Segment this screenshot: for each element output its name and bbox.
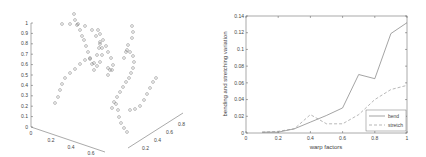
y-tick-label: 0.06 <box>234 80 244 86</box>
x-tick-label: 0.2 <box>48 137 55 143</box>
z-tick-label: 1 <box>25 20 28 26</box>
legend: bend stretch <box>366 110 406 131</box>
right-line-plot: 00.020.040.060.080.10.120.14 00.20.40.60… <box>222 13 409 150</box>
z-tick-label: 0.4 <box>21 82 28 88</box>
left-3d-plot: 00.10.20.30.40.50.60.70.80.91 00.20.40.6… <box>21 13 185 157</box>
x-tick-label: 1 <box>406 135 409 141</box>
z-tick-label: 0.2 <box>21 103 28 109</box>
scatter-markers <box>54 13 158 134</box>
x-tick-label: 0 <box>30 130 33 136</box>
legend-bend-label: bend <box>388 113 399 119</box>
y-tick-label: 0.14 <box>234 13 244 19</box>
y-tick-label: 0.2 <box>142 145 149 151</box>
z-tick-label: 0.7 <box>21 51 28 57</box>
y-axis-label: bending and stretching variation <box>222 31 228 116</box>
x-tick-label: 0 <box>245 135 248 141</box>
x-tick-label: 0.2 <box>275 135 282 141</box>
z-tick-label: 0.3 <box>21 92 28 98</box>
z-tick-label: 0.8 <box>21 40 28 46</box>
legend-stretch-label: stretch <box>388 122 403 128</box>
y-tick-label: 0.8 <box>178 121 185 127</box>
x-tick-label: 0.6 <box>88 150 95 156</box>
x-axis-label: warp factors <box>309 144 343 150</box>
z-tick-label: 0 <box>25 124 28 130</box>
x-tick-label: 0.8 <box>371 135 378 141</box>
x-tick-label: 0.4 <box>307 135 314 141</box>
z-tick-label: 0.9 <box>21 30 28 36</box>
y-tick-label: 0.12 <box>234 29 244 35</box>
z-tick-label: 0.5 <box>21 72 28 78</box>
x-tick-label: 0.4 <box>68 144 75 150</box>
y-tick-label: 0.08 <box>234 63 244 69</box>
y-tick-label: 0.02 <box>234 113 244 119</box>
z-tick-label: 0.6 <box>21 61 28 67</box>
figure-canvas: 00.10.20.30.40.50.60.70.80.91 00.20.40.6… <box>0 0 426 157</box>
x-tick-label: 0.6 <box>339 135 346 141</box>
y-tick-label: 0.6 <box>166 129 173 135</box>
z-tick-label: 0.1 <box>21 113 28 119</box>
y-tick-label: 0.1 <box>237 46 244 52</box>
y-tick-label: 0.04 <box>234 96 244 102</box>
y-tick-label: 0.4 <box>154 137 161 143</box>
x-ticks: 00.20.40.6 <box>30 130 95 156</box>
